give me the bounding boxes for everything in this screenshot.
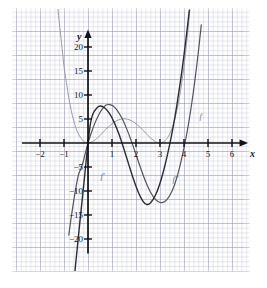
x-tick-label: 6 [223,150,241,159]
y-tick-label: −20 [59,235,83,244]
curve-label-f: f [200,111,202,121]
y-tick-label: 20 [59,43,83,52]
x-axis-name: x [250,149,255,159]
x-tick-label: 5 [199,150,217,159]
x-axis-arrow [240,139,249,146]
y-tick-label: 10 [59,91,83,100]
x-tick-label: 2 [127,150,145,159]
x-tick-label: 3 [151,150,169,159]
curve-label-fp: f′ [100,171,104,181]
function-graph-figure: −2−11234562015105−5−10−15−20xyff′f″ [0,0,267,288]
plot-canvas [0,0,267,288]
y-axis-name: y [77,32,81,42]
y-tick-label: −15 [59,211,83,220]
y-axis-arrow [84,29,91,38]
y-tick-label: −5 [59,163,83,172]
axes-group [22,29,248,253]
y-tick-label: 5 [59,115,83,124]
x-tick-label: −1 [55,150,73,159]
x-tick-label: −2 [31,150,49,159]
x-tick-label: 1 [103,150,121,159]
curve-label-fpp: f″ [172,174,178,184]
x-tick-label: 4 [175,150,193,159]
y-tick-label: −10 [59,187,83,196]
y-tick-label: 15 [59,67,83,76]
